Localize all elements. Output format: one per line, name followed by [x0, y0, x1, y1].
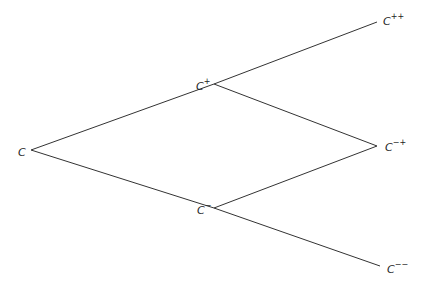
- edge-down-downdown: [214, 208, 380, 266]
- edge-down-updown: [214, 146, 377, 208]
- node-downdown-base: C: [387, 263, 395, 276]
- node-updown-base: C: [385, 141, 393, 154]
- edge-up-upup: [214, 22, 377, 84]
- node-down-sup: −: [205, 201, 212, 210]
- node-down-base: C: [197, 204, 205, 217]
- node-downdown-sup: −−: [395, 260, 408, 269]
- edge-root-up: [31, 84, 214, 150]
- node-upup-base: C: [383, 15, 391, 28]
- node-updown-sup: −+: [393, 138, 406, 147]
- node-up: C+: [196, 79, 210, 92]
- node-root: C: [18, 145, 26, 158]
- node-updown: C−+: [385, 140, 406, 153]
- node-up-base: C: [196, 80, 204, 93]
- node-downdown: C−−: [387, 262, 408, 275]
- node-root-base: C: [18, 146, 26, 159]
- node-upup-sup: ++: [391, 12, 404, 21]
- node-up-sup: +: [204, 77, 211, 86]
- edge-root-down: [31, 150, 214, 208]
- node-upup: C++: [383, 14, 404, 27]
- edge-up-updown: [214, 84, 377, 146]
- tree-edges: [0, 0, 425, 289]
- node-down: C−: [197, 203, 211, 216]
